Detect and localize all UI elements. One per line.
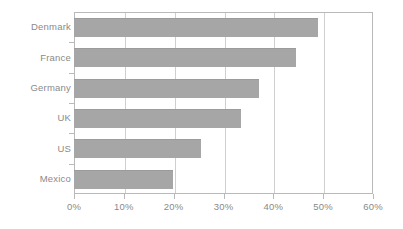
x-axis-tick — [224, 194, 225, 199]
category-label-uk: UK — [0, 112, 71, 123]
x-axis-label: 30% — [204, 201, 244, 212]
x-axis-label: 40% — [253, 201, 293, 212]
bar-mexico[interactable] — [74, 170, 173, 189]
x-axis-label: 50% — [303, 201, 343, 212]
bar-row — [74, 12, 373, 42]
bar-chart: DenmarkFranceGermanyUKUSMexico 0%10%20%3… — [0, 0, 403, 229]
x-axis-label: 60% — [353, 201, 393, 212]
category-label-us: US — [0, 143, 71, 154]
category-label-france: France — [0, 52, 71, 63]
y-axis-tick — [69, 164, 74, 165]
x-axis-tick — [174, 194, 175, 199]
bar-denmark[interactable] — [74, 18, 318, 37]
y-axis-tick — [69, 73, 74, 74]
bar-row — [74, 73, 373, 103]
x-axis-tick — [74, 194, 75, 199]
bar-row — [74, 164, 373, 194]
bar-uk[interactable] — [74, 109, 241, 128]
category-label-mexico: Mexico — [0, 173, 71, 184]
bar-row — [74, 42, 373, 72]
x-axis-tick — [373, 194, 374, 199]
bar-us[interactable] — [74, 139, 201, 158]
y-axis-tick — [69, 42, 74, 43]
x-axis-tick — [273, 194, 274, 199]
x-axis-tick — [323, 194, 324, 199]
x-axis-label: 20% — [154, 201, 194, 212]
bar-row — [74, 103, 373, 133]
y-axis-tick — [69, 103, 74, 104]
y-axis-tick — [69, 133, 74, 134]
x-axis-label: 0% — [54, 201, 94, 212]
bar-france[interactable] — [74, 48, 296, 67]
bar-row — [74, 133, 373, 163]
category-label-germany: Germany — [0, 82, 71, 93]
x-axis-label: 10% — [104, 201, 144, 212]
category-label-denmark: Denmark — [0, 21, 71, 32]
x-axis-tick — [124, 194, 125, 199]
bar-germany[interactable] — [74, 79, 259, 98]
